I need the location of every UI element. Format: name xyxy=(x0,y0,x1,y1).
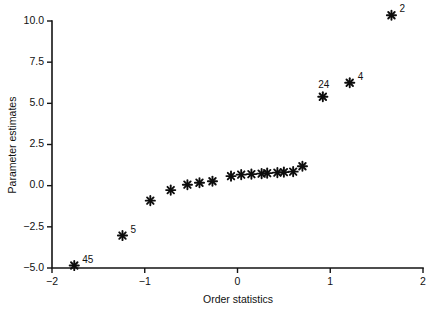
data-point-15 xyxy=(298,162,307,171)
y-tick-label-6: 10.0 xyxy=(24,14,45,26)
x-tick-label-4: 2 xyxy=(420,275,426,287)
point-label-4: 4 xyxy=(358,71,364,82)
x-tick-label-1: −1 xyxy=(139,275,151,287)
point-label-5: 5 xyxy=(130,224,136,235)
data-point-5 xyxy=(195,178,204,187)
x-tick-label-0: −2 xyxy=(46,275,58,287)
data-point-7 xyxy=(226,172,235,181)
y-tick-label-4: 5.0 xyxy=(29,96,44,108)
chart-figure: −5.0−2.50.02.55.07.510.0−2−1012 4552442 … xyxy=(0,0,441,313)
x-axis-title: Order statistics xyxy=(203,293,273,305)
data-point-3 xyxy=(166,186,175,195)
data-point-4 xyxy=(183,180,192,189)
y-tick-label-5: 7.5 xyxy=(29,55,44,67)
y-tick-label-1: −2.5 xyxy=(23,220,44,232)
axis-tick-labels: −5.0−2.50.02.55.07.510.0−2−1012 xyxy=(23,14,426,287)
data-point-14 xyxy=(289,167,298,176)
data-point-13 xyxy=(279,168,288,177)
point-label-2: 2 xyxy=(399,3,405,14)
data-point-2 xyxy=(146,196,155,205)
y-tick-label-0: −5.0 xyxy=(23,261,44,273)
plot-axes xyxy=(52,21,423,268)
y-axis-title: Parameter estimates xyxy=(6,97,18,194)
data-point-9 xyxy=(247,170,256,179)
data-point-5 xyxy=(118,231,127,240)
data-point-45 xyxy=(70,261,79,270)
data-point-4 xyxy=(345,78,354,87)
data-point-11 xyxy=(263,169,272,178)
x-tick-label-3: 1 xyxy=(327,275,333,287)
data-point-6 xyxy=(208,177,217,186)
data-point-8 xyxy=(237,170,246,179)
axis-ticks xyxy=(47,21,423,273)
scatter-plot-canvas: −5.0−2.50.02.55.07.510.0−2−1012 4552442 … xyxy=(0,0,441,313)
data-point-2 xyxy=(387,11,396,20)
y-tick-label-2: 0.0 xyxy=(29,178,44,190)
point-label-45: 45 xyxy=(82,254,94,265)
x-tick-label-2: 0 xyxy=(235,275,241,287)
axis-spines xyxy=(52,21,423,268)
data-point-24 xyxy=(318,92,327,101)
data-points xyxy=(70,11,396,270)
y-tick-label-3: 2.5 xyxy=(29,137,44,149)
data-point-labels: 4552442 xyxy=(82,3,405,264)
point-label-24: 24 xyxy=(318,79,330,90)
